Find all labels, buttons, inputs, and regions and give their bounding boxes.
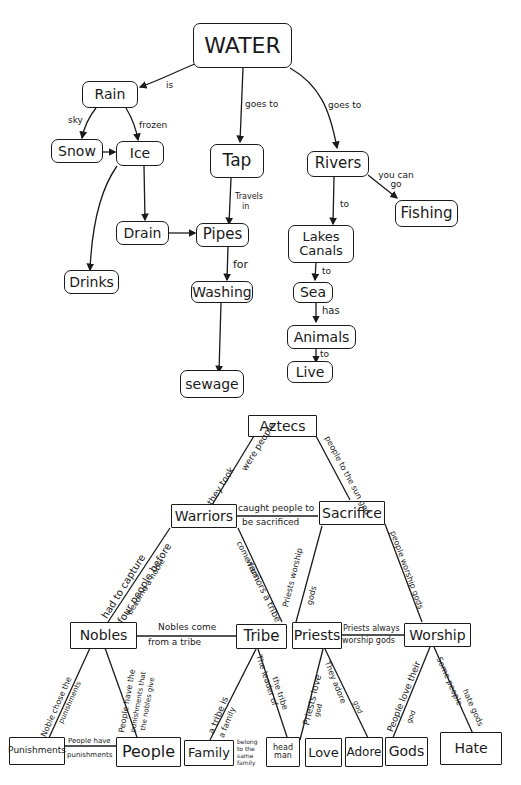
link-label-rivers-lakes: to	[340, 200, 349, 209]
node-tribe: Tribe	[236, 624, 287, 649]
node-sacrifice: Sacrifice	[319, 501, 385, 525]
link-label-rivers-fishing: you can go	[376, 171, 416, 189]
link-label-priests-worship-2: worship gods	[342, 637, 395, 645]
node-gods: Gods	[385, 737, 428, 766]
node-love: Love	[305, 738, 342, 767]
link-label-nobles-tribe-1: Nobles come	[158, 623, 216, 632]
man-text: man	[274, 752, 292, 760]
node-rivers: Rivers	[307, 151, 369, 177]
link-label-warriors-sacrifice-2: be sacrificed	[242, 518, 299, 527]
node-drain: Drain	[116, 221, 169, 245]
node-sewage: sewage	[180, 370, 244, 398]
node-hate: Hate	[440, 732, 502, 765]
link-label-sea-animals: has	[322, 306, 340, 316]
link-label-water-rivers: goes to	[328, 101, 361, 110]
link-label-tap-pipes-1: Travels	[235, 193, 263, 201]
node-water: WATER	[193, 23, 292, 68]
node-ice: Ice	[116, 141, 164, 166]
link-label-priests-worship-1: Priests always	[343, 625, 400, 633]
node-drinks: Drinks	[64, 270, 119, 294]
node-fishing: Fishing	[395, 200, 458, 227]
node-live: Live	[287, 361, 333, 383]
link-label-nobles-tribe-2: from a tribe	[148, 638, 201, 647]
node-priests: Priests	[292, 622, 342, 649]
node-aztecs: Aztecs	[248, 415, 317, 437]
link-label-family-headman-4: family	[237, 760, 256, 766]
link-label-tap-pipes-2: in	[242, 203, 249, 211]
link-label-punishments-people-1: People have	[68, 738, 111, 745]
link-label-water-tap: goes to	[245, 100, 278, 109]
canals-text: Canals	[299, 244, 343, 258]
node-people: People	[116, 737, 181, 767]
link-label-water-rain: is	[166, 81, 173, 90]
link-label-animals-live: to	[320, 350, 329, 359]
link-label-rain-snow: sky	[68, 116, 83, 125]
node-snow: Snow	[51, 139, 103, 163]
node-animals: Animals	[287, 325, 356, 349]
node-pipes: Pipes	[196, 223, 249, 247]
node-head-man: head man	[266, 737, 300, 767]
node-worship: Worship	[404, 623, 471, 647]
node-lakes-canals: Lakes Canals	[288, 225, 354, 263]
link-label-rain-ice: frozen	[139, 121, 167, 130]
node-tap: Tap	[210, 144, 264, 178]
node-rain: Rain	[82, 81, 138, 108]
link-label-warriors-sacrifice-1: caught people to	[238, 504, 314, 513]
node-sea: Sea	[293, 282, 333, 303]
node-adore: Adore	[345, 737, 383, 767]
link-label-pipes-washing: for	[233, 259, 248, 270]
lakes-text: Lakes	[302, 230, 339, 244]
node-warriors: Warriors	[171, 504, 237, 528]
link-label-punishments-people-2: punishments	[67, 752, 112, 759]
node-punishments: Punishments	[9, 737, 65, 765]
node-washing: Washing	[191, 281, 253, 303]
node-nobles: Nobles	[70, 622, 137, 649]
node-family: Family	[184, 740, 234, 766]
link-label-lakes-sea: to	[322, 267, 331, 276]
